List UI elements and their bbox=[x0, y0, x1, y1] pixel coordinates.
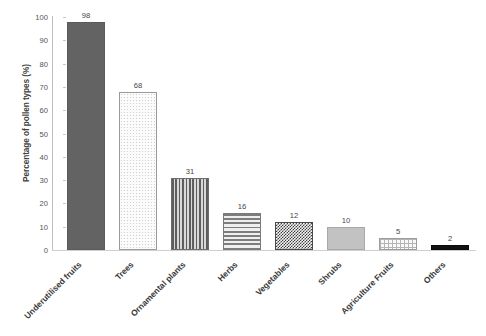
bar-herbs: 16 bbox=[223, 213, 261, 250]
y-tick-label: 100 bbox=[20, 13, 48, 22]
y-axis-ticks: 0 10 20 30 40 50 60 70 80 90 100 bbox=[14, 0, 48, 336]
bar-value-label: 98 bbox=[82, 11, 90, 20]
x-axis-line bbox=[52, 250, 476, 251]
bar-value-label: 31 bbox=[186, 167, 194, 176]
bar-value-label: 5 bbox=[396, 227, 400, 236]
plot-area: 98 68 31 16 12 10 5 2 bbox=[52, 17, 476, 250]
y-tick-label: 50 bbox=[20, 129, 48, 138]
y-tick-label: 0 bbox=[20, 246, 48, 255]
bar-ornamental-plants: 31 bbox=[171, 178, 209, 250]
bar-value-label: 2 bbox=[448, 234, 452, 243]
y-tick-label: 20 bbox=[20, 199, 48, 208]
bar-agriculture-fruits: 5 bbox=[379, 238, 417, 250]
y-tick-label: 30 bbox=[20, 176, 48, 185]
bar-value-label: 16 bbox=[238, 202, 246, 211]
y-tick-label: 90 bbox=[20, 36, 48, 45]
y-tick-label: 70 bbox=[20, 82, 48, 91]
bar-value-label: 12 bbox=[290, 211, 298, 220]
y-tick-label: 60 bbox=[20, 106, 48, 115]
bar-underutilised-fruits: 98 bbox=[67, 22, 105, 250]
y-tick-label: 80 bbox=[20, 59, 48, 68]
bar-shrubs: 10 bbox=[327, 227, 365, 250]
bar-vegetables: 12 bbox=[275, 222, 313, 250]
y-tick-label: 40 bbox=[20, 152, 48, 161]
y-tick-label: 10 bbox=[20, 222, 48, 231]
bar-chart: Percentage of pollen types (%) 0 10 20 3… bbox=[0, 0, 486, 336]
bar-trees: 68 bbox=[119, 92, 157, 251]
bar-others: 2 bbox=[431, 245, 469, 250]
bar-value-label: 68 bbox=[134, 81, 142, 90]
bar-value-label: 10 bbox=[342, 216, 350, 225]
